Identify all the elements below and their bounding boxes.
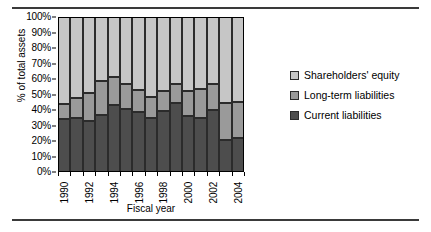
y-tick-label: 80% (32, 43, 51, 53)
x-tick-label: 1990 (60, 182, 70, 203)
y-tick-mark (52, 94, 56, 95)
x-tick-mark (132, 172, 133, 176)
x-tick-label: 2002 (209, 182, 219, 203)
legend-item-equity[interactable]: Shareholders' equity (290, 69, 425, 82)
legend-item-label: Current liabilities (304, 110, 382, 121)
x-tick-mark (83, 172, 84, 176)
x-tick-mark (95, 172, 96, 176)
top-divider-rule (12, 7, 419, 9)
x-tick-mark (70, 172, 71, 176)
legend-item-current[interactable]: Current liabilities (290, 109, 425, 122)
x-tick-mark (58, 172, 59, 176)
chart-figure: 100%90%80%70%60%50%40%30%20%10%0% % of t… (0, 0, 431, 232)
y-tick-label: 50% (32, 90, 51, 100)
y-tick-mark (52, 172, 56, 173)
y-tick-label: 0% (37, 167, 51, 177)
x-tick-mark (207, 172, 208, 176)
chart-legend: Shareholders' equityLong-term liabilitie… (290, 69, 425, 129)
bottom-divider-rule (12, 219, 419, 221)
y-tick-mark (52, 32, 56, 33)
x-tick-mark (194, 172, 195, 176)
x-tick-label: 1994 (110, 182, 120, 203)
x-tick-label: 2004 (234, 182, 244, 203)
x-tick-label: 1996 (135, 182, 145, 203)
y-tick-label: 70% (32, 59, 51, 69)
legend-item-label: Long-term liabilities (304, 90, 394, 101)
plot-area (58, 17, 244, 172)
y-tick-mark (52, 17, 56, 18)
y-tick-label: 60% (32, 74, 51, 84)
x-tick-mark (108, 172, 109, 176)
y-tick-mark (52, 63, 56, 64)
x-axis: 19901992199419961998200020022004 (58, 172, 244, 206)
y-axis: 100%90%80%70%60%50%40%30%20%10%0% (0, 17, 56, 172)
x-tick-label: 1992 (85, 182, 95, 203)
y-tick-label: 100% (26, 12, 51, 22)
y-tick-mark (52, 156, 56, 157)
legend-item-longterm[interactable]: Long-term liabilities (290, 89, 425, 102)
x-axis-title: Fiscal year (58, 203, 244, 214)
legend-swatch-icon (290, 111, 299, 120)
y-tick-label: 10% (32, 152, 51, 162)
y-tick-label: 40% (32, 105, 51, 115)
x-tick-label: 2000 (184, 182, 194, 203)
y-tick-mark (52, 48, 56, 49)
x-tick-mark (232, 172, 233, 176)
y-tick-label: 90% (32, 28, 51, 38)
y-tick-label: 30% (32, 121, 51, 131)
legend-item-label: Shareholders' equity (304, 70, 399, 81)
x-tick-mark (244, 172, 245, 176)
x-tick-mark (182, 172, 183, 176)
y-axis-title: % of total assets (16, 11, 27, 121)
x-tick-mark (170, 172, 171, 176)
y-tick-mark (52, 110, 56, 111)
y-tick-mark (52, 79, 56, 80)
x-tick-mark (157, 172, 158, 176)
y-tick-mark (52, 125, 56, 126)
x-tick-label: 1998 (159, 182, 169, 203)
plot-frame (58, 17, 244, 172)
y-tick-label: 20% (32, 136, 51, 146)
legend-swatch-icon (290, 91, 299, 100)
legend-swatch-icon (290, 71, 299, 80)
x-tick-mark (145, 172, 146, 176)
y-tick-mark (52, 141, 56, 142)
x-tick-mark (120, 172, 121, 176)
x-tick-mark (219, 172, 220, 176)
